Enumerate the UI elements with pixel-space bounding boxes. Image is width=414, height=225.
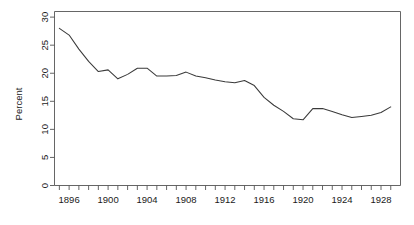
x-tick-label: 1924 <box>331 194 352 205</box>
line-chart: Percent 051015202530 1896190019041908191… <box>0 0 414 225</box>
plot-frame <box>55 12 401 186</box>
chart-figure: Percent 051015202530 1896190019041908191… <box>0 0 414 225</box>
x-tick-label: 1904 <box>137 194 158 205</box>
x-axis: 189619001904190819121916192019241928 <box>55 186 401 205</box>
x-tick-label: 1896 <box>59 194 80 205</box>
x-tick-label: 1908 <box>176 194 197 205</box>
x-tick-label: 1916 <box>253 194 274 205</box>
x-tick-label-group: 189619001904190819121916192019241928 <box>59 194 392 205</box>
y-axis: 051015202530 <box>39 12 55 189</box>
y-tick-label: 20 <box>39 68 50 79</box>
y-tick-label: 10 <box>39 124 50 135</box>
data-series-line <box>59 28 390 119</box>
y-axis-title: Percent <box>13 87 24 120</box>
y-tick-label: 15 <box>39 96 50 107</box>
y-tick-label: 0 <box>39 183 50 188</box>
y-tick-label: 30 <box>39 12 50 23</box>
y-tick-label: 5 <box>39 155 50 160</box>
y-tick-label: 25 <box>39 40 50 51</box>
x-tick-label: 1912 <box>214 194 235 205</box>
x-tick-label: 1920 <box>292 194 313 205</box>
x-tick-group <box>59 186 390 191</box>
y-tick-group: 051015202530 <box>39 12 55 188</box>
x-tick-label: 1900 <box>98 194 119 205</box>
x-tick-label: 1928 <box>370 194 391 205</box>
